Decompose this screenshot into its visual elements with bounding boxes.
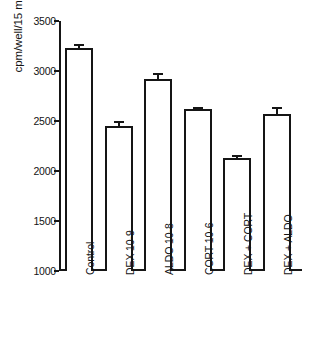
x-axis-tick-label: CORT 10-6 (203, 223, 215, 275)
y-axis-tick-label: 1500 (22, 216, 56, 226)
y-axis-tick-mark (54, 70, 59, 72)
error-bar-cap (232, 155, 242, 157)
y-axis-tick-mark (54, 170, 59, 172)
y-axis-tick-label: 3000 (22, 66, 56, 76)
x-axis-tick-label: Control (84, 242, 96, 275)
error-bar-cap (193, 107, 203, 109)
y-axis-line (59, 21, 61, 271)
error-bar-cap (74, 44, 84, 46)
error-bar-cap (153, 73, 163, 75)
error-bar-cap (272, 107, 282, 109)
plot-area (59, 21, 302, 271)
y-axis-tick-label: 3500 (22, 16, 56, 26)
y-axis-tick-label: 2000 (22, 166, 56, 176)
error-bar-cap (114, 121, 124, 123)
y-axis-tick-mark (54, 120, 59, 122)
x-axis-tick-label: DEX + ALDO (282, 214, 294, 275)
y-axis-tick-mark (54, 20, 59, 22)
bar-chart-figure: cpm/well/15 min 100015002000250030003500… (0, 0, 309, 341)
x-axis-tick-label: DEX 10-9 (124, 230, 136, 275)
x-axis-tick-label: ALDO 10-8 (163, 223, 175, 275)
x-axis-tick-label: DEX + CORT (242, 213, 254, 275)
y-axis-tick-label: 1000 (22, 266, 56, 276)
y-axis-tick-mark (54, 220, 59, 222)
y-axis-tick-labels: 100015002000250030003500 (20, 0, 56, 341)
bar (65, 48, 93, 271)
y-axis-tick-label: 2500 (22, 116, 56, 126)
y-axis-tick-mark (54, 270, 59, 272)
